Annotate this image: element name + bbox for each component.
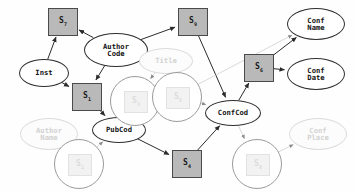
edge-authorcode-to-s7 <box>79 30 93 38</box>
node-c_s8[interactable]: S8 <box>232 139 282 189</box>
node-title[interactable]: Title <box>139 48 193 74</box>
node-c_s5[interactable]: S5 <box>152 72 202 122</box>
node-sub-s9: 9 <box>194 21 197 27</box>
node-label-confname: Conf Name <box>307 17 324 31</box>
edge-pubcod-to-s4 <box>136 138 169 155</box>
node-label-confplace: Conf Place <box>307 127 329 141</box>
edge-authorcode-to-s1 <box>96 64 106 80</box>
node-s1[interactable]: S1 <box>72 83 102 111</box>
node-confplace[interactable]: Conf Place <box>289 118 347 150</box>
node-confcod[interactable]: ConfCod <box>205 100 261 126</box>
inner-node-c_s3[interactable]: S3 <box>124 91 148 113</box>
node-sub-c_s8: 8 <box>259 164 262 170</box>
node-sub-c_s5: 5 <box>179 97 182 103</box>
node-label-inst: Inst <box>35 69 52 76</box>
node-label-confdate: Conf Date <box>307 67 324 81</box>
edge-s9-to-confcod <box>198 34 226 97</box>
node-label-c_s8: S8 <box>254 160 262 170</box>
node-label-s1: S1 <box>83 92 91 102</box>
node-label-confcod: ConfCod <box>218 109 248 116</box>
node-s9[interactable]: S9 <box>178 8 208 36</box>
node-sub-s6: 6 <box>260 67 263 73</box>
node-label-s9: S9 <box>189 17 197 27</box>
inner-node-c_s2[interactable]: S2 <box>68 154 92 176</box>
diagram-canvas: S7S9S1S6S4Author CodeInstPubCodConfCodCo… <box>0 0 355 193</box>
node-s4[interactable]: S4 <box>172 150 202 178</box>
node-inst[interactable]: Inst <box>19 59 69 87</box>
edge-c_s8-to-confplace <box>278 145 294 153</box>
edge-s6-to-confname <box>272 37 296 56</box>
node-sub-s7: 7 <box>64 21 67 27</box>
node-sub-c_s2: 2 <box>81 164 84 170</box>
node-label-authorcode: Author Code <box>103 43 129 57</box>
node-sub-s4: 4 <box>188 163 191 169</box>
node-label-c_s2: S2 <box>76 160 84 170</box>
edge-confcod-to-c_s8 <box>238 124 245 139</box>
node-label-c_s3: S3 <box>132 97 140 107</box>
node-label-title: Title <box>155 57 177 64</box>
node-s7[interactable]: S7 <box>48 8 78 36</box>
inner-node-c_s8[interactable]: S8 <box>246 154 270 176</box>
node-sub-c_s3: 3 <box>137 101 140 107</box>
edge-s4-to-confcod <box>198 126 220 150</box>
inner-node-c_s5[interactable]: S5 <box>166 87 190 109</box>
node-s6[interactable]: S6 <box>244 54 274 82</box>
edge-confcod-to-s6 <box>239 83 249 100</box>
node-label-c_s5: S5 <box>174 93 182 103</box>
edge-inst-to-s7 <box>48 37 56 59</box>
node-c_s2[interactable]: S2 <box>54 139 104 189</box>
edge-authorcode-to-s9 <box>140 27 175 40</box>
node-label-pubcod: PubCod <box>106 126 132 133</box>
node-sub-s1: 1 <box>88 96 91 102</box>
node-label-s7: S7 <box>59 17 67 27</box>
node-label-authorname: Author Name <box>36 127 62 141</box>
node-label-s6: S6 <box>255 63 263 73</box>
node-confname[interactable]: Conf Name <box>287 8 345 40</box>
node-label-s4: S4 <box>183 159 191 169</box>
node-confdate[interactable]: Conf Date <box>287 58 345 90</box>
